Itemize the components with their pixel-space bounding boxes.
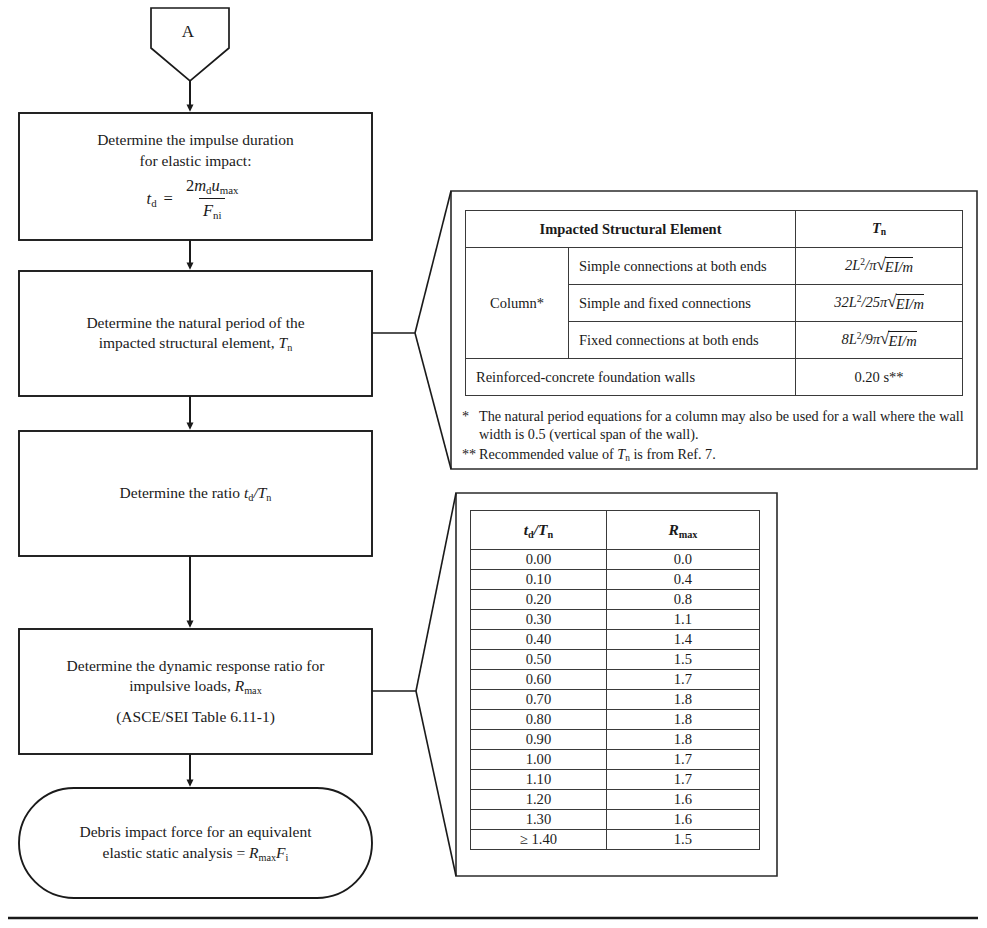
cell-description: Simple and fixed connections [569,285,796,322]
header-rmax: Rmax [606,511,759,550]
process-box-impulse-duration-text: Determine the impulse duration for elast… [19,113,372,240]
dynamic-response-line-1: Determine the dynamic response ratio for [67,656,325,676]
footnote-text-a: The natural period equations for a colum… [479,408,839,424]
cell-ratio: 1.30 [471,810,607,830]
table-row-header: Impacted Structural Element Tn [466,211,963,248]
header-tn: Tn [796,211,963,248]
cell-ratio: 0.70 [471,690,607,710]
table-row: 0.601.7 [471,670,760,690]
ratio-line-1: Determine the ratio td/Tn [120,483,272,504]
footnote-double-star: ** Recommended value of Tn is from Ref. … [462,445,972,465]
table-row: 0.801.8 [471,710,760,730]
footnote-text: Recommended value of Tn is from Ref. 7. [479,445,972,465]
impacted-structural-element-table: Impacted Structural Element Tn Column* S… [465,210,963,396]
process-box-natural-period-text: Determine the natural period of the impa… [19,271,372,396]
cell-ratio: 1.00 [471,750,607,770]
cell-rmax: 1.7 [606,670,759,690]
table-row: 0.301.1 [471,610,760,630]
natural-period-line-1: Determine the natural period of the [86,313,304,333]
table-row: 1.001.7 [471,750,760,770]
cell-rmax: 1.4 [606,630,759,650]
footnote-mark: * [462,407,479,444]
natural-period-line-2: impacted structural element, Tn [99,333,293,354]
cell-ratio: 0.90 [471,730,607,750]
table-row: 1.301.6 [471,810,760,830]
cell-ratio: 0.40 [471,630,607,650]
footnote-text-post: is from Ref. 7. [630,446,716,462]
table-row: 0.200.8 [471,590,760,610]
dynamic-response-ratio-table: td/Tn Rmax 0.000.0 0.100.4 0.200.8 0.301… [470,510,760,850]
cell-description: Simple connections at both ends [569,248,796,285]
cell-foundation-walls-value: 0.20 s** [796,359,963,396]
terminator-text: Debris impact force for an equivalent el… [19,788,372,898]
terminator-line-2: elastic static analysis = RmaxFi [103,843,289,864]
cell-rmax: 1.6 [606,810,759,830]
cell-group-column: Column* [466,248,569,359]
footnote-mark: ** [462,445,479,465]
cell-tn-formula: 8L2/9π√EI/m [796,322,963,359]
dynamic-response-line-2: impulsive loads, Rmax [129,676,262,697]
cell-ratio: 0.30 [471,610,607,630]
table-row: 0.000.0 [471,550,760,570]
off-page-connector-label: A [158,22,218,42]
table-row: 1.101.7 [471,770,760,790]
natural-period-table-footnotes: * The natural period equations for a col… [462,407,972,466]
cell-rmax: 0.4 [606,570,759,590]
footnote-text: The natural period equations for a colum… [479,407,972,444]
table-row: Reinforced-concrete foundation walls 0.2… [466,359,963,396]
cell-ratio: 0.10 [471,570,607,590]
cell-ratio: 0.50 [471,650,607,670]
cell-rmax: 1.7 [606,770,759,790]
header-td-over-tn: td/Tn [471,511,607,550]
callout-leader-natural-period [372,191,451,469]
cell-tn-formula: 32L2/25π√EI/m [796,285,963,322]
footnote-single-star: * The natural period equations for a col… [462,407,972,444]
cell-rmax: 0.8 [606,590,759,610]
cell-rmax: 1.8 [606,710,759,730]
cell-foundation-walls: Reinforced-concrete foundation walls [466,359,796,396]
cell-rmax: 0.0 [606,550,759,570]
cell-ratio: 0.60 [471,670,607,690]
cell-rmax: 1.8 [606,690,759,710]
cell-ratio: 0.00 [471,550,607,570]
footnote-text-pre: Recommended value of [479,446,617,462]
cell-rmax: 1.5 [606,830,759,850]
cell-rmax: 1.1 [606,610,759,630]
cell-ratio: 0.20 [471,590,607,610]
table-row: 1.201.6 [471,790,760,810]
cell-ratio: ≥ 1.40 [471,830,607,850]
impulse-duration-line-1: Determine the impulse duration [97,130,294,150]
flowchart-canvas: A Determine the impulse duration for ela… [0,0,987,928]
process-box-dynamic-response-text: Determine the dynamic response ratio for… [19,629,372,754]
cell-rmax: 1.6 [606,790,759,810]
table-row: 0.401.4 [471,630,760,650]
cell-rmax: 1.5 [606,650,759,670]
cell-ratio: 1.10 [471,770,607,790]
cell-rmax: 1.7 [606,750,759,770]
table-row: Column* Simple connections at both ends … [466,248,963,285]
impulse-duration-equation: td = 2mdumax Fni [147,175,245,222]
callout-leader-rmax [372,493,456,876]
cell-description: Fixed connections at both ends [569,322,796,359]
table-row: 0.901.8 [471,730,760,750]
table-row: 0.501.5 [471,650,760,670]
table-row: 0.701.8 [471,690,760,710]
terminator-line-1: Debris impact force for an equivalent [80,822,312,842]
off-page-connector-shape [151,8,229,81]
cell-ratio: 1.20 [471,790,607,810]
table-row-header: td/Tn Rmax [471,511,760,550]
table-row: ≥ 1.401.5 [471,830,760,850]
cell-rmax: 1.8 [606,730,759,750]
table-row: 0.100.4 [471,570,760,590]
cell-tn-formula: 2L2/π√EI/m [796,248,963,285]
dynamic-response-reference: (ASCE/SEI Table 6.11-1) [116,707,275,727]
process-box-ratio-text: Determine the ratio td/Tn [19,431,372,556]
cell-ratio: 0.80 [471,710,607,730]
header-impacted-structural-element: Impacted Structural Element [466,211,796,248]
impulse-duration-line-2: for elastic impact: [140,151,252,171]
